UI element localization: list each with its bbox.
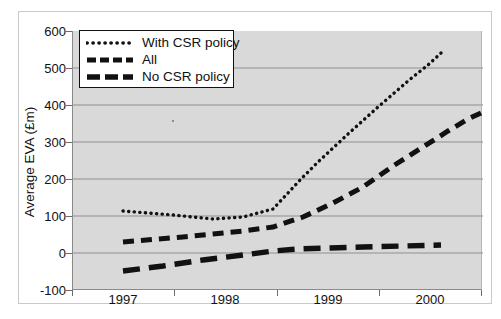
- x-tick-mark-0: [72, 290, 73, 296]
- scan-speck: [172, 120, 174, 122]
- x-tick-label-1997: 1997: [93, 293, 153, 306]
- x-tick-label-1999: 1999: [298, 293, 358, 306]
- x-tick-mark-1: [174, 290, 175, 296]
- x-tick-label-2000: 2000: [400, 293, 460, 306]
- x-tick-mark-4: [481, 290, 482, 296]
- x-tick-mark-3: [379, 290, 380, 296]
- chart-figure: Average EVA (£m) 600 500 400 300 200 100…: [0, 0, 501, 319]
- x-tick-label-1998: 1998: [195, 293, 255, 306]
- x-tick-mark-2: [277, 290, 278, 296]
- x-axis-tick-labels: 1997 1998 1999 2000: [0, 0, 501, 319]
